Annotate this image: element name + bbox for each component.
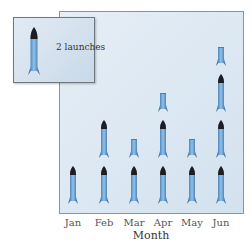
rocket-icon [68,166,77,204]
rocket-icon [99,166,108,204]
x-axis-title: Month [133,229,169,242]
half-rocket-icon [216,47,225,66]
x-tick-may: May [181,217,203,228]
rocket-icon [187,166,196,204]
x-tick-mar: Mar [124,217,145,228]
rocket-icon [216,120,225,158]
half-rocket-icon [158,93,167,112]
rocket-icon [28,27,40,75]
x-tick-jan: Jan [65,217,81,228]
rocket-icon [158,120,167,158]
rocket-icon [129,166,138,204]
legend-label: 2 launches [56,42,105,52]
half-rocket-icon [129,139,138,158]
rocket-icon [216,74,225,112]
x-tick-apr: Apr [154,217,172,228]
x-tick-feb: Feb [95,217,114,228]
rocket-icon [158,166,167,204]
rocket-icon [216,166,225,204]
legend-box: 2 launches [13,17,95,83]
rocket-icon [99,120,108,158]
half-rocket-icon [187,139,196,158]
x-tick-jun: Jun [213,217,230,228]
